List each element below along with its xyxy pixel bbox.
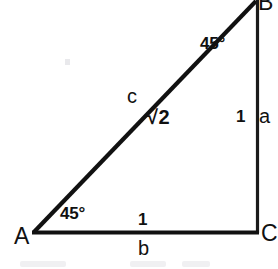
- length-label-leg-a: 1: [236, 108, 245, 125]
- length-label-leg-b: 1: [138, 211, 147, 228]
- vertex-label-b: B: [258, 0, 273, 14]
- vertex-label-c: C: [261, 222, 278, 245]
- scan-smudge: [20, 261, 66, 267]
- vertex-label-a: A: [14, 225, 29, 248]
- side-label-b: b: [138, 238, 149, 258]
- length-label-hypotenuse: √2: [147, 107, 170, 127]
- side-label-a: a: [259, 106, 270, 126]
- scan-speck: [65, 59, 70, 65]
- side-label-c: c: [127, 86, 137, 106]
- triangle-figure: A B C 45° 45° c a b √2 1 1: [0, 0, 278, 269]
- angle-label-at-b: 45°: [200, 35, 225, 52]
- scan-smudge: [130, 261, 166, 267]
- angle-label-at-a: 45°: [60, 205, 85, 222]
- scan-smudge: [182, 261, 210, 267]
